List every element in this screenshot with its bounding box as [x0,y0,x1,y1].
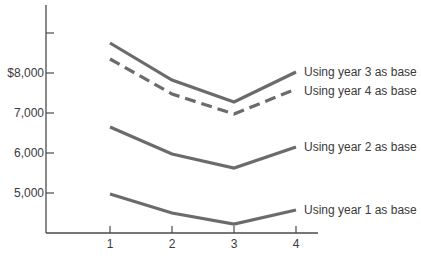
line-chart: 5,0006,0007,000$8,0001234 Using year 3 a… [0,0,421,262]
series-label: Using year 3 as base [304,65,417,79]
x-tick-label: 2 [169,237,176,251]
x-tick-label: 4 [293,237,300,251]
x-tick-label: 3 [231,237,238,251]
series-line-1 [110,43,296,102]
y-tick-label: 7,000 [14,106,44,120]
y-tick-label: 6,000 [14,146,44,160]
series-line-4 [110,194,296,224]
series-label: Using year 4 as base [304,84,417,98]
y-tick-label: 5,000 [14,186,44,200]
y-tick-label: $8,000 [7,66,44,80]
chart-canvas: 5,0006,0007,000$8,0001234 Using year 3 a… [0,0,421,262]
series-label: Using year 2 as base [304,140,417,154]
series-labels: Using year 3 as baseUsing year 4 as base… [304,65,417,217]
series-line-3 [110,127,296,168]
series-label: Using year 1 as base [304,203,417,217]
series-lines [110,43,296,224]
x-tick-label: 1 [107,237,114,251]
